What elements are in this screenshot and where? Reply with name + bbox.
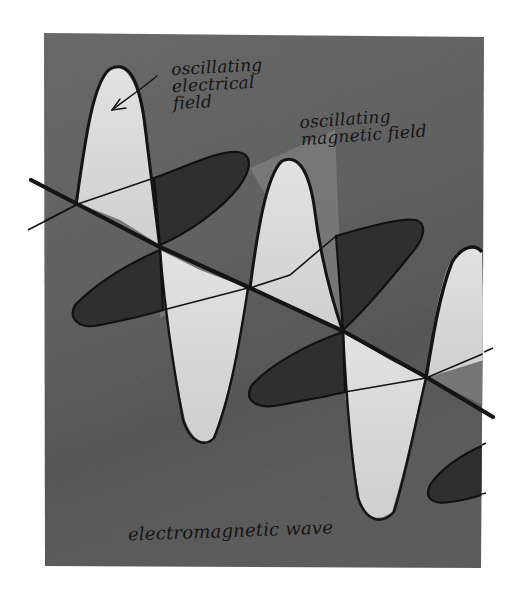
electric-field-label: oscillating electrical field [171, 55, 294, 112]
